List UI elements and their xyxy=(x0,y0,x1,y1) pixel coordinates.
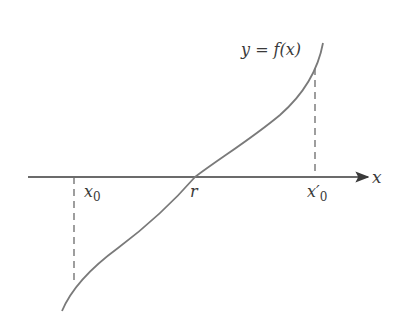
root-label-r: r xyxy=(190,182,199,201)
axis-label-x: x xyxy=(372,167,382,187)
x0-prime-label: x′0 xyxy=(307,182,327,204)
root-finding-diagram: y = f(x) x x0 r x′0 xyxy=(0,0,405,331)
curve-label: y = f(x) xyxy=(240,40,301,59)
x0-label: x0 xyxy=(84,182,101,204)
